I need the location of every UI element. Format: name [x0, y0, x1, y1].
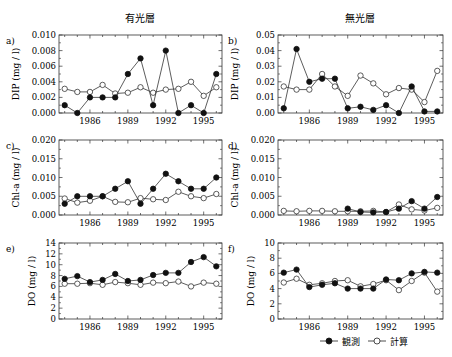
observed-point [87, 279, 92, 284]
calculated-point [163, 87, 168, 92]
observed-point [281, 106, 286, 111]
observed-point [332, 76, 337, 81]
observed-point [307, 79, 312, 84]
observed-point [125, 179, 130, 184]
plot-frame [59, 35, 222, 113]
observed-point [294, 267, 299, 272]
calculated-point [75, 89, 80, 94]
observed-point [188, 259, 193, 264]
observed-point [62, 276, 67, 281]
observed-point [163, 48, 168, 53]
calculated-point [294, 209, 299, 214]
calculated-point [100, 82, 105, 87]
x-tick-label: 1986 [79, 116, 101, 126]
y-tick-label: 8 [270, 253, 275, 263]
observed-point [125, 71, 130, 76]
observed-point [75, 194, 80, 199]
y-tick-label: 0.04 [256, 46, 275, 56]
observed-point [409, 198, 414, 203]
legend-observed: 観測 [342, 336, 360, 347]
calculated-point [214, 191, 219, 196]
x-tick-label: 1989 [337, 322, 359, 332]
column-title-aphotic: 無光層 [345, 12, 375, 24]
calculated-point [345, 93, 350, 98]
calculated-point [435, 68, 440, 73]
observed-point [345, 106, 350, 111]
observed-point [188, 103, 193, 108]
panel-label: a) [6, 36, 15, 46]
y-axis-label: Chl-a (mg / l) [11, 148, 21, 208]
calculated-point [150, 280, 155, 285]
y-tick-label: 0.002 [32, 92, 56, 102]
y-tick-label: 0.00 [256, 108, 275, 118]
calculated-point [332, 84, 337, 89]
calculated-point [383, 92, 388, 97]
calculated-point [138, 85, 143, 90]
y-tick-label: 2 [51, 303, 56, 313]
observed-point [188, 186, 193, 191]
y-tick-label: 10 [264, 238, 275, 248]
observed-point [75, 110, 80, 115]
observed-point [150, 272, 155, 277]
observed-point [396, 278, 401, 283]
observed-point [371, 210, 376, 215]
legend: 観測 計算 [320, 336, 408, 347]
panel-label: c) [6, 141, 15, 151]
calculated-point [332, 209, 337, 214]
observed-point [113, 95, 118, 100]
calculated-point [345, 278, 350, 283]
panel-e: 198619891992199502468101214DO (mg / l)e) [6, 238, 222, 332]
y-tick-label: 0.020 [32, 135, 56, 145]
y-tick-label: 4 [270, 284, 275, 294]
calculated-point [188, 194, 193, 199]
observed-point [62, 201, 67, 206]
observed-point [100, 194, 105, 199]
y-tick-label: 0.000 [251, 210, 275, 220]
y-tick-label: 0.010 [251, 173, 275, 183]
calculated-point [214, 85, 219, 90]
calculated-point [294, 87, 299, 92]
y-axis-label: DO (mg / l) [246, 256, 256, 306]
panel-f: 19861989199219950246810DO (mg / l)f) [228, 238, 443, 332]
panel-c: 19861989199219950.0000.0050.0100.0150.02… [6, 135, 222, 228]
observed-point [138, 277, 143, 282]
observed-point [422, 206, 427, 211]
observed-point [358, 209, 363, 214]
figure: 有光層 無光層 19861989199219950.0000.0020.0040… [0, 0, 452, 357]
calculated-point [150, 90, 155, 95]
y-tick-label: 0 [51, 314, 56, 324]
observed-point [358, 104, 363, 109]
calculated-point [176, 189, 181, 194]
calculated-point [201, 93, 206, 98]
observed-point [125, 278, 130, 283]
observed-point [113, 271, 118, 276]
observed-point [307, 284, 312, 289]
x-tick-label: 1989 [117, 322, 139, 332]
calculated-marker-icon [374, 338, 380, 344]
calculated-point [163, 280, 168, 285]
calculated-point [188, 284, 193, 289]
y-tick-label: 0.02 [256, 77, 275, 87]
y-tick-label: 14 [45, 238, 56, 248]
x-tick-label: 1995 [193, 218, 215, 228]
y-tick-label: 0.015 [32, 154, 56, 164]
y-tick-label: 0.000 [32, 108, 56, 118]
observed-point [87, 95, 92, 100]
y-tick-label: 0.03 [256, 61, 275, 71]
calculated-point [371, 81, 376, 86]
y-tick-label: 0.010 [32, 30, 56, 40]
observed-point [87, 194, 92, 199]
x-tick-label: 1989 [337, 116, 359, 126]
calculated-point [176, 279, 181, 284]
calculated-point [435, 289, 440, 294]
column-title-photic: 有光層 [125, 12, 155, 24]
calculated-point [125, 200, 130, 205]
calculated-point [358, 73, 363, 78]
x-tick-label: 1989 [117, 116, 139, 126]
observed-point [396, 110, 401, 115]
calculated-point [409, 207, 414, 212]
observed-point [214, 264, 219, 269]
panel-label: e) [6, 244, 15, 254]
observed-point [201, 110, 206, 115]
observed-point [371, 286, 376, 291]
